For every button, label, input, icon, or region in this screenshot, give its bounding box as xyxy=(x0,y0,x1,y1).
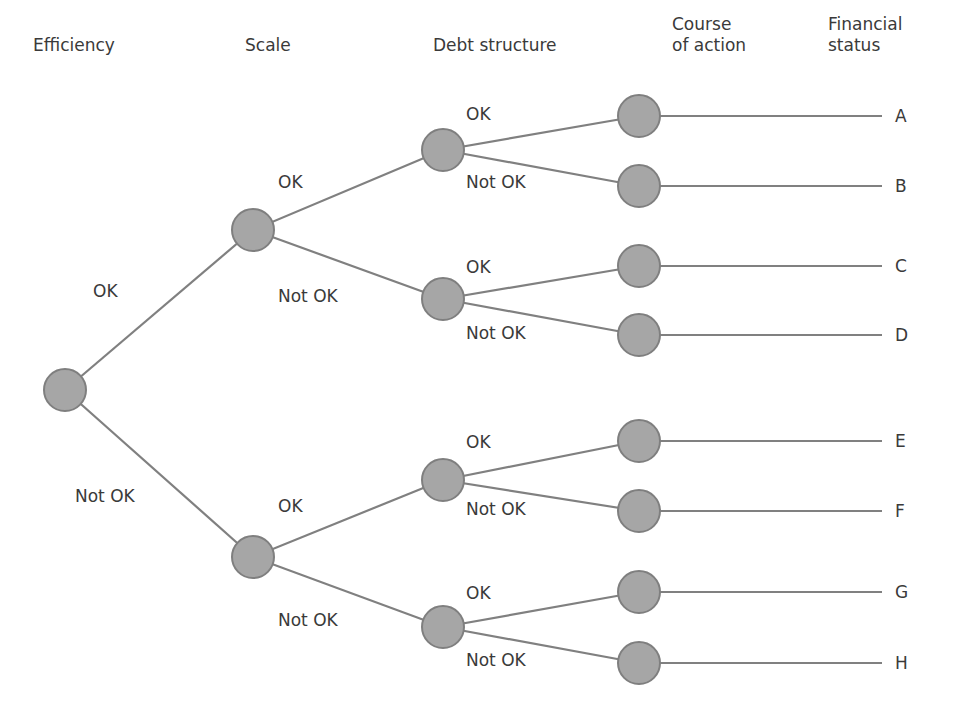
column-header-scale: Scale xyxy=(245,35,291,56)
outcome-label-g: G xyxy=(895,582,908,602)
outcome-label-c: C xyxy=(895,256,907,276)
edge-label-ok: OK xyxy=(466,432,491,452)
outcome-lines-layer xyxy=(639,116,882,663)
edge-root-s2 xyxy=(65,390,253,557)
edge-label-not-ok: Not OK xyxy=(278,286,338,306)
outcome-label-e: E xyxy=(895,431,906,451)
node-debt-d4 xyxy=(422,606,464,648)
edge-label-not-ok: Not OK xyxy=(466,172,526,192)
node-action-a3 xyxy=(618,245,660,287)
edge-label-not-ok: Not OK xyxy=(466,650,526,670)
edge-label-not-ok: Not OK xyxy=(466,323,526,343)
edge-label-ok: OK xyxy=(278,172,303,192)
node-scale-s1 xyxy=(232,209,274,251)
node-scale-s2 xyxy=(232,536,274,578)
outcome-label-b: B xyxy=(895,176,907,196)
edge-label-ok: OK xyxy=(466,257,491,277)
edges-layer xyxy=(65,116,639,663)
column-header-action: Course of action xyxy=(672,14,746,56)
outcome-label-f: F xyxy=(895,501,905,521)
node-action-a2 xyxy=(618,165,660,207)
edge-label-ok: OK xyxy=(466,104,491,124)
outcome-label-a: A xyxy=(895,106,907,126)
node-efficiency-root xyxy=(44,369,86,411)
node-action-a5 xyxy=(618,420,660,462)
node-debt-d1 xyxy=(422,129,464,171)
node-action-a8 xyxy=(618,642,660,684)
edge-label-ok: OK xyxy=(466,583,491,603)
node-action-a1 xyxy=(618,95,660,137)
nodes-layer xyxy=(44,95,660,684)
outcome-label-h: H xyxy=(895,653,908,673)
node-action-a6 xyxy=(618,490,660,532)
column-header-status: Financial status xyxy=(828,14,902,56)
edge-label-not-ok: Not OK xyxy=(75,486,135,506)
node-action-a7 xyxy=(618,571,660,613)
edge-label-not-ok: Not OK xyxy=(466,499,526,519)
edge-label-ok: OK xyxy=(278,496,303,516)
decision-tree-diagram: EfficiencyScaleDebt structureCourse of a… xyxy=(0,0,957,720)
outcome-label-d: D xyxy=(895,325,908,345)
edge-root-s1 xyxy=(65,230,253,390)
node-action-a4 xyxy=(618,314,660,356)
node-debt-d3 xyxy=(422,459,464,501)
node-debt-d2 xyxy=(422,278,464,320)
column-header-efficiency: Efficiency xyxy=(33,35,115,56)
edge-s2-d3 xyxy=(253,480,443,557)
edge-label-ok: OK xyxy=(93,281,118,301)
edge-label-not-ok: Not OK xyxy=(278,610,338,630)
column-header-debt: Debt structure xyxy=(433,35,557,56)
